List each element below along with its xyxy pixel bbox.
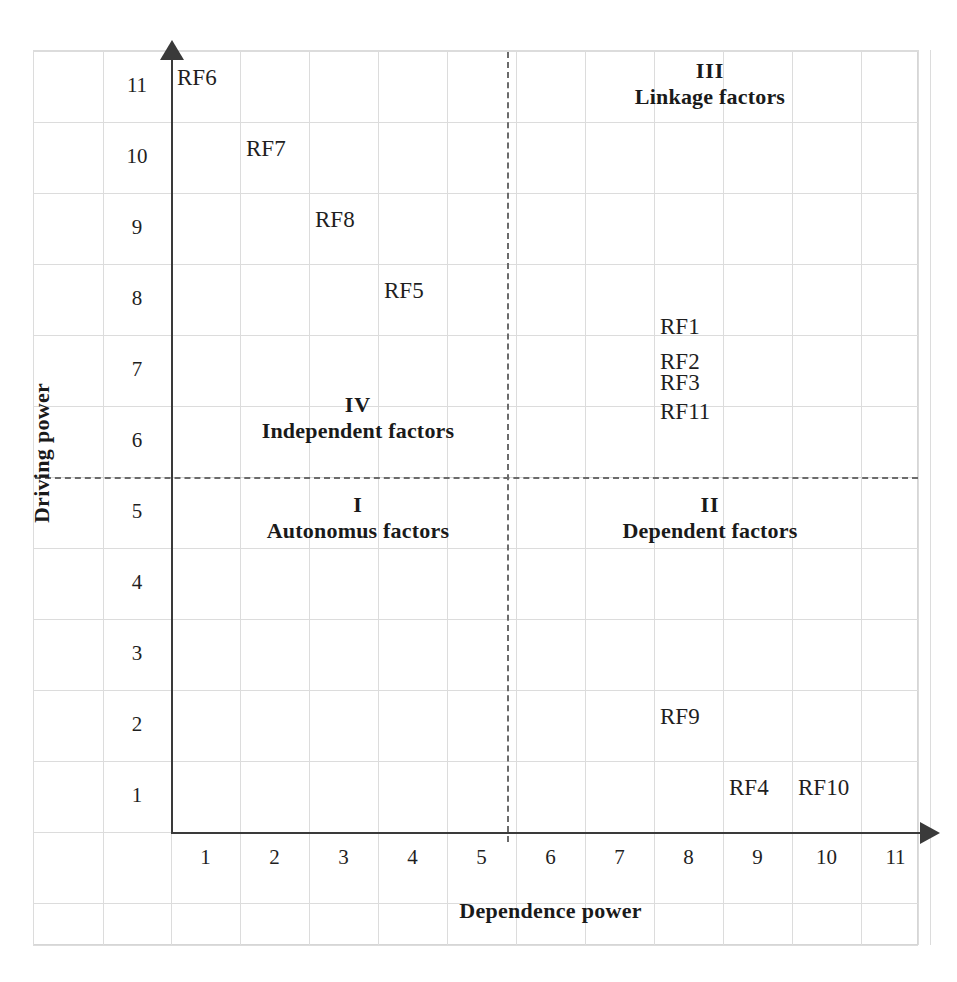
x-tick-4: 4 [378,845,447,870]
gridline-vertical [861,50,862,945]
x-tick-11: 11 [861,845,930,870]
quadrant-divider-horizontal [35,477,918,479]
x-tick-10: 10 [792,845,861,870]
factor-label-rf10: RF10 [798,775,849,801]
x-axis-title: Dependence power [171,898,930,924]
factor-label-rf4: RF4 [729,775,769,801]
factor-label-rf8: RF8 [315,207,355,233]
gridline-vertical [918,50,919,945]
x-tick-8: 8 [654,845,723,870]
y-tick-11: 11 [104,73,170,98]
y-tick-6: 6 [104,428,170,453]
quadrant-label-4: IV Independent factors [208,392,508,444]
quadrant-2-roman: II [560,492,860,518]
x-tick-2: 2 [240,845,309,870]
gridline-horizontal [33,193,918,194]
quadrant-1-name: Autonomus factors [208,518,508,544]
gridline-horizontal [33,690,918,691]
y-tick-9: 9 [104,215,170,240]
y-axis-title: Driving power [29,353,55,553]
y-tick-7: 7 [104,357,170,382]
factor-label-rf9: RF9 [660,704,700,730]
x-tick-5: 5 [447,845,516,870]
quadrant-2-name: Dependent factors [560,518,860,544]
gridline-horizontal [33,264,918,265]
x-tick-6: 6 [516,845,585,870]
factor-label-rf11: RF11 [660,399,710,425]
y-axis-line [171,52,173,834]
y-tick-4: 4 [104,570,170,595]
x-axis-line [171,832,930,834]
y-tick-8: 8 [104,286,170,311]
micmac-chart: 1110987654321 1234567891011 Driving powe… [0,0,957,982]
gridline-vertical [103,50,104,945]
y-axis-arrow-icon [160,40,184,60]
factor-label-rf1: RF1 [660,314,700,340]
quadrant-divider-vertical [507,52,509,842]
gridline-horizontal [33,619,918,620]
y-tick-2: 2 [104,712,170,737]
x-tick-1: 1 [171,845,240,870]
factor-label-rf5: RF5 [384,278,424,304]
gridline-vertical [516,50,517,945]
y-tick-1: 1 [104,783,170,808]
x-axis-arrow-icon [920,822,940,844]
x-tick-3: 3 [309,845,378,870]
x-tick-9: 9 [723,845,792,870]
quadrant-label-3: III Linkage factors [560,58,860,110]
quadrant-label-1: I Autonomus factors [208,492,508,544]
factor-label-rf7: RF7 [246,136,286,162]
gridline-horizontal [33,548,918,549]
y-tick-3: 3 [104,641,170,666]
quadrant-3-roman: III [560,58,860,84]
quadrant-4-name: Independent factors [208,418,508,444]
x-tick-7: 7 [585,845,654,870]
quadrant-1-roman: I [208,492,508,518]
quadrant-4-roman: IV [208,392,508,418]
gridline-vertical [930,50,931,945]
quadrant-label-2: II Dependent factors [560,492,860,544]
y-tick-5: 5 [104,499,170,524]
factor-label-rf3: RF3 [660,370,700,396]
gridline-horizontal [33,761,918,762]
gridline-horizontal [33,122,918,123]
gridline-horizontal [33,945,918,946]
factor-label-rf6: RF6 [177,65,217,91]
quadrant-3-name: Linkage factors [560,84,860,110]
gridline-horizontal [33,335,918,336]
y-tick-10: 10 [104,144,170,169]
